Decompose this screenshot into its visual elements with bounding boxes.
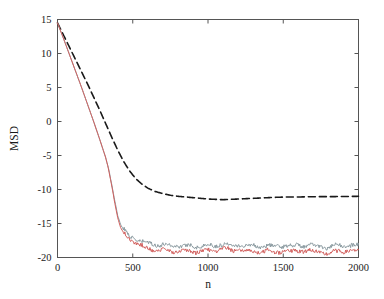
y-tick-label: -10 — [38, 184, 52, 195]
y-tick-label: -20 — [38, 252, 52, 263]
msd-convergence-chart: 0500100015002000 151050-5-10-15-20 n MSD — [0, 0, 384, 299]
x-tick-label: 500 — [125, 262, 141, 273]
y-tick-label: 15 — [41, 14, 52, 25]
x-tick-label: 2000 — [348, 262, 369, 273]
y-tick-label: 5 — [46, 82, 51, 93]
x-tick-label: 1000 — [198, 262, 219, 273]
y-axis-title: MSD — [8, 126, 20, 151]
y-tick-label: -5 — [43, 150, 52, 161]
y-tick-label: 10 — [41, 48, 52, 59]
y-tick-label: -15 — [38, 218, 52, 229]
x-axis-title: n — [205, 278, 211, 290]
y-tick-label: 0 — [46, 116, 51, 127]
x-tick-label: 1500 — [273, 262, 294, 273]
chart-figure: 0500100015002000 151050-5-10-15-20 n MSD — [0, 0, 384, 299]
x-tick-label: 0 — [55, 262, 60, 273]
